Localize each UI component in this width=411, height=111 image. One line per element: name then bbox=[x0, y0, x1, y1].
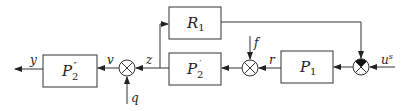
signal-q-label: q bbox=[131, 91, 139, 105]
signal-v-label: v bbox=[107, 53, 114, 67]
junction-to-r1-line bbox=[160, 24, 168, 68]
block-p2-prime-label: P2′ bbox=[186, 59, 203, 80]
signal-f-label: f bbox=[253, 36, 261, 50]
summing-junction-middle bbox=[242, 60, 258, 76]
block-p2-double-prime-label: P2″ bbox=[61, 61, 78, 82]
summing-junction-left bbox=[119, 60, 135, 76]
block-diagram: P2″ P2′ R1 P1 y v z q f r us bbox=[0, 0, 411, 111]
signal-y-label: y bbox=[29, 53, 37, 67]
signal-z-label: z bbox=[145, 53, 153, 67]
signal-us-label: us bbox=[381, 52, 393, 67]
signal-r-label: r bbox=[269, 53, 276, 67]
summing-junction-right bbox=[353, 59, 369, 75]
